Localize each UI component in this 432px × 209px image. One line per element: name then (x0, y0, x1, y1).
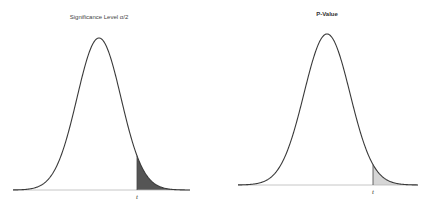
critical-value-label: t (136, 193, 139, 201)
diagram-canvas: Significance Level α/2 t P-Value t (0, 0, 432, 209)
panel-significance-level: Significance Level α/2 t (13, 14, 190, 201)
panel-title: Significance Level α/2 (70, 14, 129, 20)
normal-curve (238, 34, 418, 185)
test-statistic-label: t (372, 188, 375, 196)
panel-p-value: P-Value t (238, 11, 418, 196)
panel-title: P-Value (316, 11, 338, 17)
normal-curve (13, 38, 190, 190)
